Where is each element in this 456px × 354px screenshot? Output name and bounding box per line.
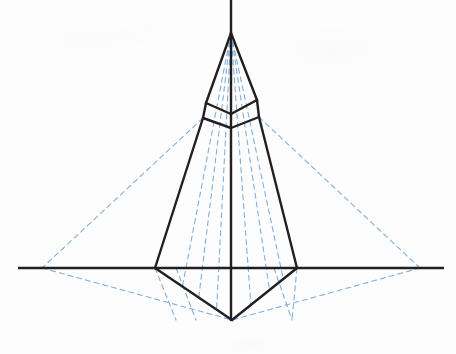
apex-ray-5 — [231, 33, 274, 320]
spire-right-fold — [231, 100, 257, 114]
perspective-construction-drawing — [0, 0, 456, 354]
apex-ray-6 — [231, 33, 292, 320]
collar-right-edge — [257, 100, 259, 117]
apex-ray-2 — [196, 33, 231, 320]
collar-left-edge — [203, 103, 206, 118]
spire-left-edge — [206, 33, 231, 103]
body-right-lower-edge — [232, 268, 297, 320]
construction-line-apex-to-right-vp-upper — [259, 117, 420, 268]
construction-line-drop-right-outer — [292, 268, 297, 320]
construction-line-right-vp-to-bottom-vertex — [232, 268, 420, 320]
drawing-canvas — [0, 0, 456, 354]
solid-outline-group — [155, 33, 297, 320]
construction-line-left-vp-to-bottom-vertex — [42, 268, 232, 320]
apex-ray-3 — [216, 33, 231, 320]
body-left-edge — [155, 118, 203, 268]
axis-lines-group — [18, 0, 444, 321]
